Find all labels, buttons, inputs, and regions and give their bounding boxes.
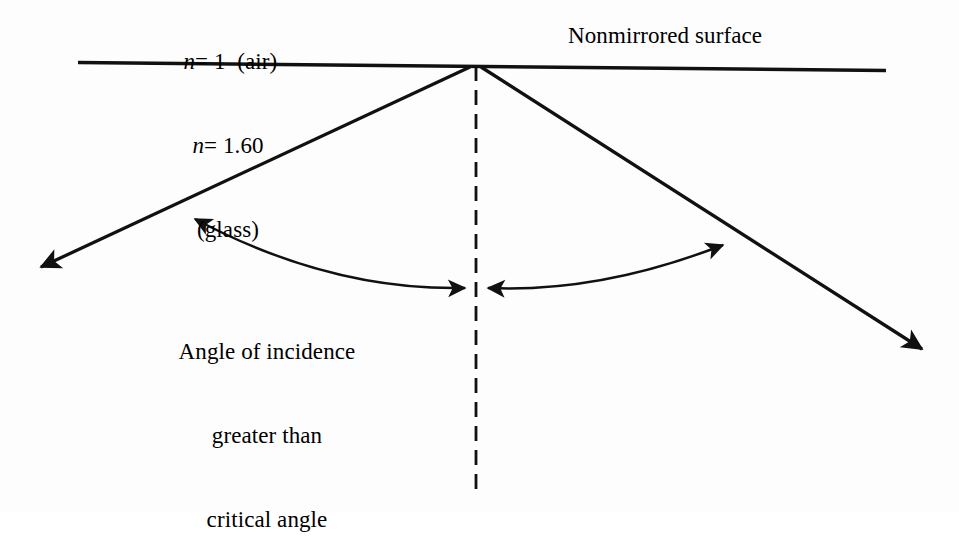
medium-name-glass: (glass) bbox=[168, 216, 288, 244]
glass-index-line: n= 1.60 bbox=[168, 132, 288, 160]
angle-note-line-3: critical angle bbox=[124, 506, 410, 534]
reflected-ray bbox=[481, 67, 922, 349]
refractive-index-value-glass: = 1.60 bbox=[204, 133, 264, 158]
right-angle-arc bbox=[488, 245, 723, 288]
angle-note-line-2: greater than bbox=[124, 422, 410, 450]
label-angle-of-incidence-note: Angle of incidence greater than critical… bbox=[124, 282, 410, 536]
label-glass-medium: n= 1.60 (glass) bbox=[168, 76, 288, 300]
refractive-index-symbol-air: n bbox=[183, 49, 195, 74]
refractive-index-value-air: = 1 bbox=[195, 49, 226, 74]
angle-note-line-1: Angle of incidence bbox=[124, 338, 410, 366]
label-nonmirrored-surface: Nonmirrored surface bbox=[568, 22, 762, 50]
refractive-index-symbol-glass: n bbox=[192, 133, 204, 158]
medium-name-air: (air) bbox=[237, 49, 277, 74]
